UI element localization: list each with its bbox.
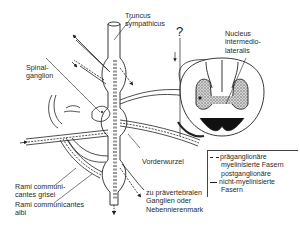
label-line: cantes grisei [15,191,65,199]
legend-label: nicht-myelinisierte [219,178,275,185]
label-spinalganglion: Spinal- ganglion [26,64,53,81]
legend-label: postganglionäre [221,170,271,178]
label-vorderwurzel: Vorderwurzel [142,158,184,166]
label-rami-communicantes-albi: Rami communicantes albi [15,201,84,218]
spinal-nerve-and-rami [20,95,144,196]
question-mark: ? [176,24,183,39]
label-praevertebrale-ganglien: zu prävertebralen Ganglien oder Nebennie… [146,189,203,214]
label-rami-communicantes-grisei: Rami communi- cantes grisei [15,183,65,200]
legend-label: Fasern [221,186,243,194]
legend-item-pre: präganglionäre [210,153,267,161]
solid-line-swatch [210,182,217,183]
sympathetic-nervous-system-diagram: Truncus sympathicus ? Nucleus intermedio… [0,0,300,233]
label-truncus-sympathicus: Truncus sympathicus [125,12,165,29]
label-line: Nebennierenmark [146,206,203,214]
legend-label: myelinisierte Fasern [221,161,284,169]
question-pointer [175,38,180,136]
truncus-sympathicus [101,22,127,213]
spinal-cord [178,58,264,136]
legend-item-post: nicht-myelinisierte [210,178,275,186]
label-line: sympathicus [125,20,165,28]
label-nucleus-intermediolateralis: Nucleus intermedio- lateralis [225,30,261,55]
dashed-line-swatch [210,157,219,158]
legend: präganglionäre myelinisierte Fasern post… [207,150,298,197]
label-line: ganglion [26,72,53,80]
legend-label: präganglionäre [220,153,267,160]
label-line: albi [15,209,84,217]
label-line: lateralis [225,47,261,55]
